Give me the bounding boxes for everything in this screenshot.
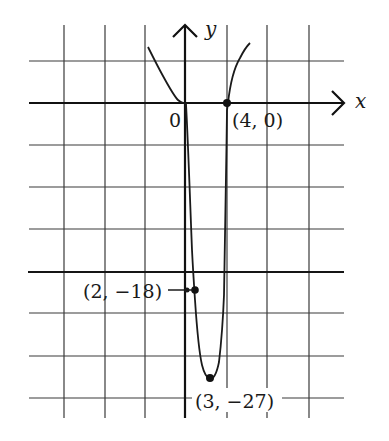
point-label-2-minus-18: (2, −18) bbox=[83, 280, 162, 302]
point-4-0 bbox=[223, 99, 231, 107]
pointer-head bbox=[185, 288, 190, 293]
function-graph: y x 0 (4, 0) (2, −18) (3, −27) bbox=[0, 0, 389, 441]
point-label-4-0: (4, 0) bbox=[232, 109, 283, 131]
y-axis-label: y bbox=[204, 17, 217, 41]
origin-label: 0 bbox=[169, 109, 181, 131]
background bbox=[0, 0, 389, 441]
point-label-3-minus-27: (3, −27) bbox=[195, 390, 274, 412]
point-3-minus-27 bbox=[206, 374, 214, 382]
x-axis-label: x bbox=[355, 89, 366, 113]
graph-svg: y x 0 (4, 0) (2, −18) (3, −27) bbox=[0, 0, 389, 441]
